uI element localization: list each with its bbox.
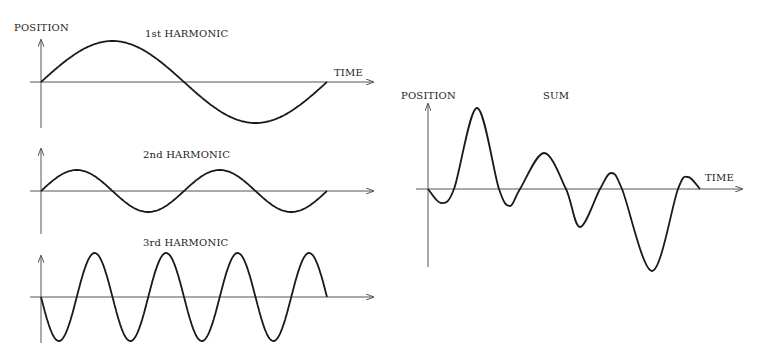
third-harmonic-title: 3rd HARMONIC: [143, 237, 229, 248]
y-axis-label: POSITION: [14, 22, 69, 33]
x-axis-label: TIME: [705, 172, 734, 183]
sum-plot: POSITION SUM TIME: [401, 90, 742, 271]
x-axis-label: TIME: [334, 67, 363, 78]
first-harmonic-plot: POSITION 1st HARMONIC TIME: [14, 22, 373, 128]
second-harmonic-plot: 2nd HARMONIC: [30, 149, 373, 234]
second-harmonic-title: 2nd HARMONIC: [143, 149, 230, 160]
third-harmonic-plot: 3rd HARMONIC: [30, 237, 373, 343]
harmonics-diagram: POSITION 1st HARMONIC TIME 2nd HARMONIC …: [0, 0, 757, 358]
y-axis-label: POSITION: [401, 90, 456, 101]
first-harmonic-title: 1st HARMONIC: [145, 28, 229, 39]
sum-title: SUM: [543, 90, 569, 101]
